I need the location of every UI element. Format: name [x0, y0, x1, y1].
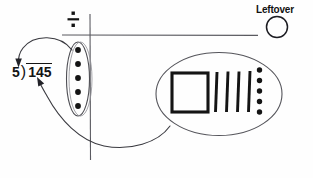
long-division-expression: 5)145 — [12, 63, 52, 81]
division-frame-vertical-rule — [90, 14, 91, 160]
divisor-dot-oval — [67, 42, 93, 116]
divisor-digit-5: 5 — [12, 64, 21, 80]
leftover-label: Leftover — [256, 4, 294, 15]
diagram-sketch — [0, 0, 313, 178]
dividend-block-ellipse — [156, 53, 282, 136]
division-sign-icon — [68, 12, 80, 28]
dividend-digits-145: 145 — [26, 63, 52, 80]
leftover-circle[interactable] — [267, 17, 288, 38]
arrow-blocks-to-dividend — [37, 77, 170, 147]
ones-dots — [257, 67, 262, 114]
tens-bars — [216, 71, 251, 112]
hundreds-square — [172, 73, 208, 112]
divisor-dots — [75, 47, 81, 109]
worksheet-canvas: Leftover 5)145 — [0, 0, 313, 178]
